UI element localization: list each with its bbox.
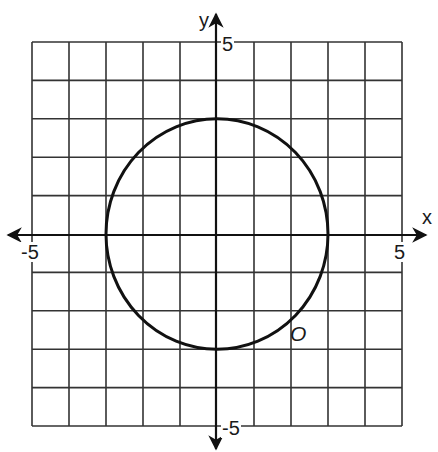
y-tick-max: 5	[221, 34, 234, 54]
y-tick-min: -5	[221, 418, 241, 438]
circle-label: O	[290, 323, 306, 344]
x-tick-min: -5	[20, 242, 40, 262]
x-tick-max: 5	[393, 242, 406, 262]
x-axis-label: x	[422, 207, 432, 227]
y-axis-label: y	[199, 10, 209, 30]
coordinate-plane	[0, 0, 438, 452]
axes	[8, 14, 426, 449]
